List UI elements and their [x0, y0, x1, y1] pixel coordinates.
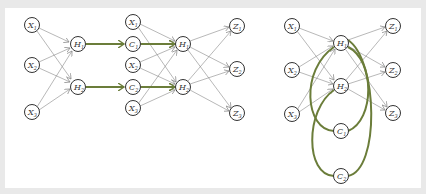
recurrent-network-diagram: X1 X2 X3 H1 H2 X1 C1 X2 C2 X3 H1 H2 Z1 Z… [0, 0, 426, 194]
node-z1: Z1 [230, 19, 245, 34]
node-x3: X3 [126, 101, 141, 116]
node-z2: Z2 [386, 63, 401, 78]
node-c2: C2 [126, 80, 141, 95]
node-x1: X1 [25, 18, 40, 33]
node-c1: C1 [334, 124, 349, 139]
node-z1: Z1 [386, 19, 401, 34]
node-h1: H1 [176, 37, 191, 52]
node-z3: Z3 [230, 106, 245, 121]
node-x2: X2 [126, 58, 141, 73]
node-c1: C1 [126, 37, 141, 52]
node-x3: X3 [25, 105, 40, 120]
recurrent-loops [310, 40, 371, 176]
node-x1: X1 [285, 19, 300, 34]
node-x3: X3 [285, 107, 300, 122]
node-h2: H2 [334, 79, 349, 94]
right-nodes: X1 X2 X3 H1 H2 C1 C2 Z1 Z2 Z3 [285, 19, 401, 184]
node-x1: X1 [126, 15, 141, 30]
left-edges [37, 28, 72, 110]
copy-arrows [86, 44, 124, 87]
node-h2: H2 [176, 80, 191, 95]
left-nodes: X1 X2 X3 H1 H2 [25, 18, 86, 120]
node-x2: X2 [25, 58, 40, 73]
node-h2: H2 [71, 80, 86, 95]
node-x2: X2 [285, 63, 300, 78]
node-z3: Z3 [386, 106, 401, 121]
node-h1: H1 [334, 36, 349, 51]
node-h1: H1 [71, 37, 86, 52]
node-c2: C2 [334, 169, 349, 184]
node-z2: Z2 [230, 62, 245, 77]
